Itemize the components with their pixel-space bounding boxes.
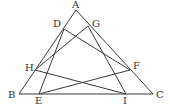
label-F: F: [133, 60, 140, 71]
segment-GH: [35, 26, 88, 70]
segment-DE: [39, 29, 64, 94]
label-I: I: [123, 95, 127, 106]
label-C: C: [156, 89, 164, 100]
segment-GI: [88, 26, 126, 94]
label-H: H: [25, 62, 34, 73]
label-D: D: [53, 18, 61, 29]
line-segments: [19, 10, 153, 94]
label-B: B: [8, 89, 15, 100]
label-A: A: [71, 0, 80, 10]
triangle-diagram: A B C D G H F E I: [0, 0, 170, 110]
point-labels: A B C D G H F E I: [8, 0, 164, 106]
label-G: G: [92, 18, 100, 29]
segment-EF: [39, 70, 130, 94]
segment-AB: [19, 10, 76, 94]
segment-DF: [64, 29, 130, 70]
label-E: E: [35, 95, 42, 106]
segment-HI: [35, 70, 126, 94]
